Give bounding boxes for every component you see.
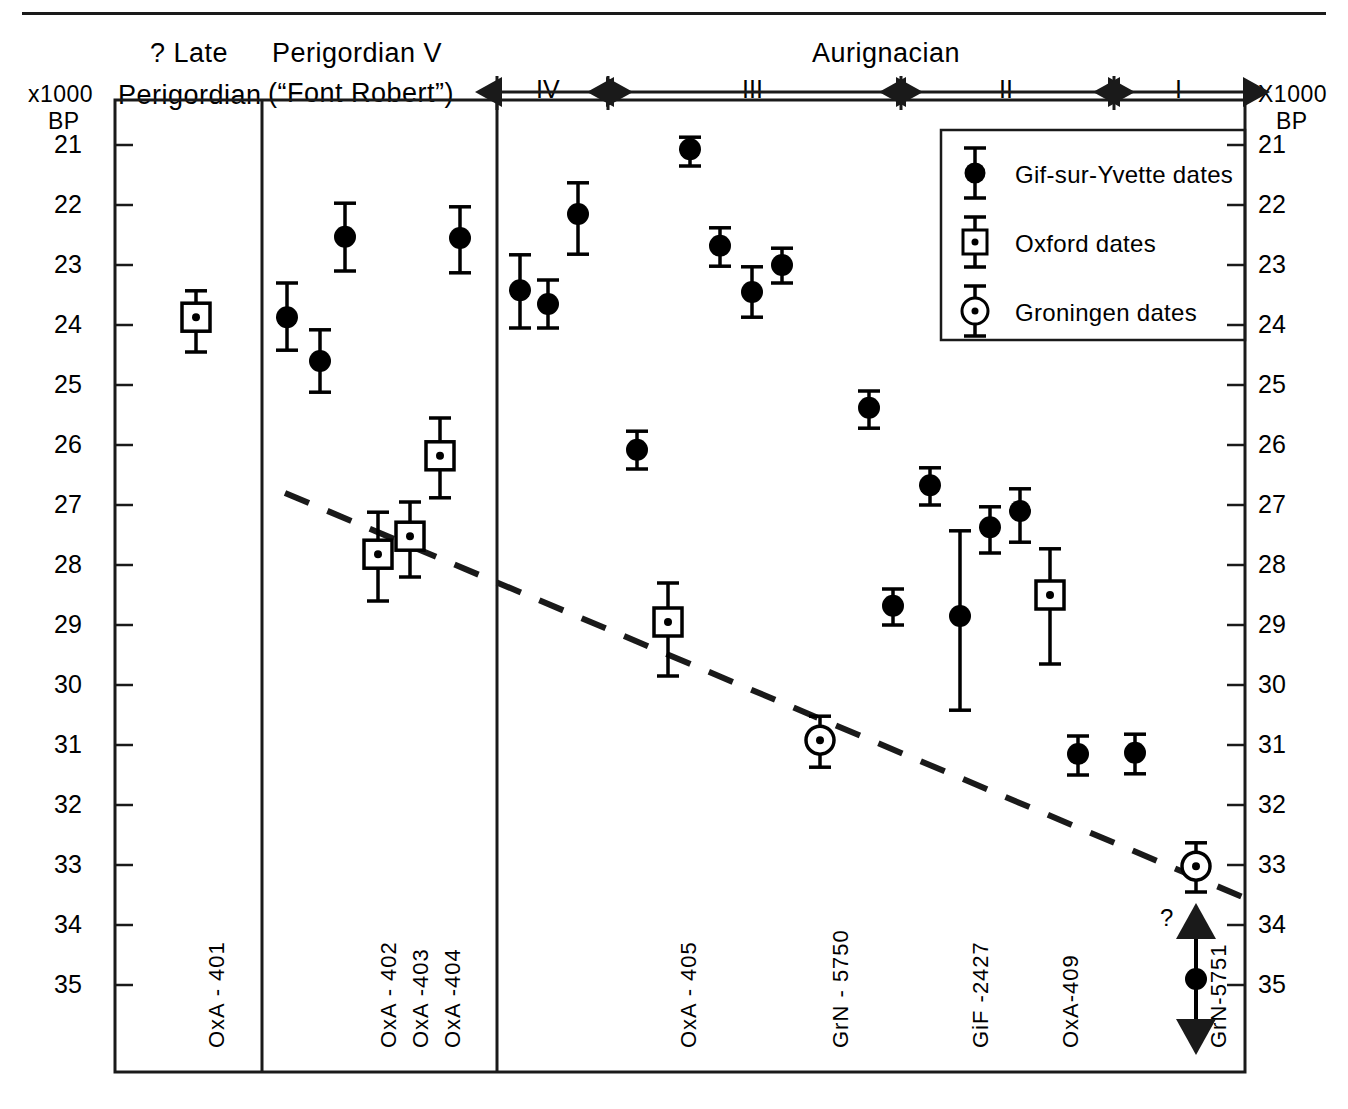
data-point-circle-dot: [1182, 843, 1210, 892]
plot-frame: [115, 100, 1245, 1072]
y-tick-label-right: 23: [1258, 252, 1286, 277]
data-point-square-dot: [1036, 549, 1064, 664]
data-point-filled-circle: [567, 183, 589, 254]
data-point-filled-circle: [882, 589, 904, 625]
y-tick-label-left: 32: [54, 792, 82, 817]
data-point-filled-circle: [1009, 489, 1031, 542]
data-point-filled-circle: [949, 531, 971, 710]
data-point-filled-circle: [509, 255, 531, 328]
y-tick-label-right: 34: [1258, 912, 1286, 937]
y-tick-label-left: 29: [54, 612, 82, 637]
data-point-filled-circle: [1067, 736, 1089, 775]
legend-marker-gif: [964, 148, 986, 198]
y-tick-label-right: 21: [1258, 132, 1286, 157]
data-point-filled-circle: [979, 507, 1001, 553]
y-tick-label-left: 34: [54, 912, 82, 937]
y-tick-label-left: 35: [54, 972, 82, 997]
y-tick-label-left: 27: [54, 492, 82, 517]
y-tick-label-right: 35: [1258, 972, 1286, 997]
y-axis-ticks-right: [1227, 145, 1245, 985]
y-tick-label-left: 25: [54, 372, 82, 397]
y-tick-label-left: 30: [54, 672, 82, 697]
y-tick-label-left: 24: [54, 312, 82, 337]
y-tick-label-right: 25: [1258, 372, 1286, 397]
y-tick-label-right: 28: [1258, 552, 1286, 577]
y-tick-label-left: 23: [54, 252, 82, 277]
data-point-circle-dot: [806, 716, 834, 767]
data-point-filled-circle: [771, 248, 793, 283]
y-tick-label-right: 29: [1258, 612, 1286, 637]
y-tick-label-left: 22: [54, 192, 82, 217]
phase-arrows: [497, 76, 1243, 110]
data-point-filled-circle: [449, 207, 471, 273]
figure-page: ? Late Perigordian Perigordian V (“Font …: [0, 0, 1348, 1109]
data-point-filled-circle: [626, 431, 648, 469]
y-tick-label-right: 26: [1258, 432, 1286, 457]
data-points-group: [182, 137, 1210, 1019]
y-tick-label-right: 22: [1258, 192, 1286, 217]
y-tick-label-right: 30: [1258, 672, 1286, 697]
data-point-filled-circle: [709, 228, 731, 266]
y-tick-label-left: 28: [54, 552, 82, 577]
legend-marker-groningen: [962, 286, 988, 336]
data-point-square-dot: [364, 512, 392, 601]
y-tick-label-left: 21: [54, 132, 82, 157]
data-point-filled-circle: [741, 267, 763, 317]
data-point-filled-circle: [1124, 734, 1146, 774]
y-tick-label-right: 32: [1258, 792, 1286, 817]
data-point-filled-circle: [1185, 939, 1207, 1019]
data-point-filled-circle: [919, 468, 941, 505]
data-point-square-dot: [654, 583, 682, 676]
y-tick-label-right: 31: [1258, 732, 1286, 757]
data-point-filled-circle: [679, 137, 701, 166]
y-tick-label-right: 27: [1258, 492, 1286, 517]
data-point-square-dot: [426, 418, 454, 498]
y-tick-label-left: 31: [54, 732, 82, 757]
data-point-filled-circle: [858, 391, 880, 428]
data-point-filled-circle: [276, 283, 298, 350]
legend-marker-oxford: [963, 217, 987, 267]
data-point-filled-circle: [309, 330, 331, 392]
y-tick-label-left: 33: [54, 852, 82, 877]
chart-canvas: [0, 0, 1348, 1109]
data-point-filled-circle: [334, 203, 356, 271]
y-tick-label-right: 24: [1258, 312, 1286, 337]
data-point-square-dot: [182, 291, 210, 352]
y-axis-ticks-left: [115, 145, 133, 985]
y-tick-label-right: 33: [1258, 852, 1286, 877]
data-point-filled-circle: [537, 280, 559, 328]
data-point-square-dot: [396, 502, 424, 577]
y-tick-label-left: 26: [54, 432, 82, 457]
trend-line: [285, 493, 1245, 898]
